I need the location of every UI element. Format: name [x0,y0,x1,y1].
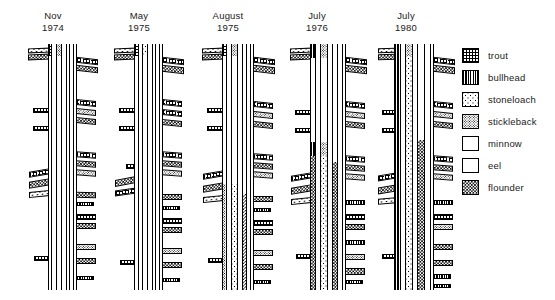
branch-bar-right-9 [253,208,271,212]
branch-bar-right-1 [433,65,455,75]
branch-bar-fill [76,244,96,250]
branch-bar-right-7 [433,173,453,180]
species-column-1 [56,44,62,290]
branch-bar-fill [345,111,365,119]
column-group-0: Nov1974 [22,0,84,300]
branch-bar-right-0 [433,57,455,66]
species-legend: troutbullheadstoneloachsticklebackminnow… [462,44,554,198]
column-segment-1 [135,56,138,290]
branch-bar-fill [202,48,224,54]
branch-bar-right-6 [253,162,273,169]
group-header-0: Nov1974 [22,10,84,33]
branch-bar-right-4 [253,121,273,129]
species-column-3 [430,44,434,290]
group-header-1: May1975 [108,10,170,33]
branch-bar-left-0 [114,48,136,54]
branch-bar-fill [28,54,50,61]
column-segment-0 [311,44,315,58]
legend-swatch-stoneloach-icon [462,92,479,107]
branch-bar-fill [433,111,453,119]
branch-bar-right-8 [253,196,273,202]
branch-bar-fill [433,200,453,205]
column-segment-0 [333,44,337,162]
column-segment-3 [321,156,327,290]
branch-bar-right-1 [253,65,275,75]
column-segment-2 [395,170,400,290]
column-segment-1 [333,162,337,290]
group-plot-body-4 [372,44,440,290]
branch-bar-fill [253,101,273,109]
branch-bar-fill [253,57,275,66]
branch-bar-right-14 [76,276,94,280]
group-year-label: 1975 [108,22,170,34]
legend-item-trout: trout [462,44,554,66]
branch-bar-fill [162,160,182,167]
species-column-1 [231,44,238,290]
branch-bar-fill [433,173,453,180]
column-segment-2 [223,184,226,290]
branch-bar-right-5 [433,155,453,162]
branch-bar-left-6 [291,197,312,205]
branch-bar-fill [345,121,365,129]
branch-bar-fill [433,121,453,129]
branch-bar-right-11 [76,223,96,229]
branch-bar-fill [345,65,367,75]
branch-bar-fill [433,164,453,171]
legend-label: bullhead [488,72,526,83]
column-segment-0 [406,44,412,56]
branch-bar-fill [433,155,453,162]
legend-label: stickleback [488,116,537,127]
branch-bar-fill [253,264,273,270]
column-segment-0 [160,44,162,290]
branch-bar-fill [162,194,182,200]
legend-swatch-flounder-icon [462,180,479,195]
group-year-label: 1974 [22,22,84,34]
branch-bar-right-12 [345,254,365,260]
column-segment-2 [406,164,412,290]
branch-bar-fill [203,170,224,180]
branch-bar-fill [291,172,312,182]
branch-bar-left-6 [203,195,224,203]
branch-bar-left-6 [115,188,136,197]
legend-swatch-trout-icon [462,48,479,63]
branch-bar-left-4 [29,168,50,178]
branch-bar-right-9 [76,202,94,206]
species-column-3 [159,44,163,290]
column-group-2: August1975 [196,0,260,300]
branch-bar-fill [345,214,365,220]
legend-item-stoneloach: stoneloach [462,88,554,110]
branch-bar-fill [345,268,365,275]
branch-bar-fill [253,196,273,202]
branch-bar-right-0 [253,57,275,66]
column-segment-0 [223,44,226,56]
branch-bar-right-10 [433,224,453,230]
branch-bar-right-9 [433,214,453,220]
column-segment-3 [311,156,315,290]
column-segment-1 [406,56,412,164]
branch-bar-fill [162,218,182,224]
branch-bar-left-4 [203,170,224,180]
branch-bar-right-7 [162,169,182,176]
species-column-0 [48,44,52,290]
column-segment-1 [143,56,147,290]
branch-bar-fill [29,190,50,198]
legend-swatch-minnow-icon [462,136,479,151]
branch-bar-right-8 [433,200,453,205]
branch-bar-fill [76,99,96,107]
column-segment-0 [343,44,345,242]
branch-bar-fill [76,169,96,177]
branch-bar-fill [114,54,136,61]
branch-bar-fill [203,182,224,193]
branch-bar-fill [115,176,136,187]
column-segment-0 [74,44,76,290]
branch-bar-fill [76,202,94,206]
group-month-label: August [196,10,260,22]
branch-bar-right-5 [253,153,273,160]
species-column-1 [320,44,328,290]
group-plot-body-2 [196,44,260,290]
species-column-3 [342,44,346,290]
branch-bar-fill [291,184,312,195]
branch-bar-fill [253,111,273,119]
column-segment-0 [135,44,138,56]
branch-bar-fill [253,153,273,160]
